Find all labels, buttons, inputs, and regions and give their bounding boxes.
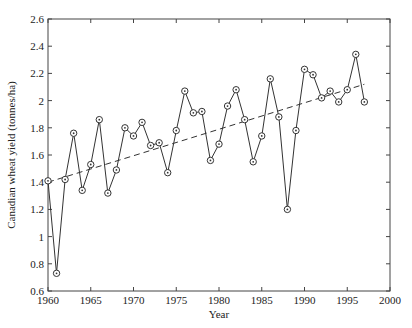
y-axis-label: Canadian wheat yield (tonnes/ha) <box>5 81 18 229</box>
y-tick-label: 0.6 <box>30 285 44 297</box>
data-point-dot <box>338 101 340 103</box>
data-point-dot <box>201 111 203 113</box>
data-point-dot <box>261 135 263 137</box>
x-tick-label: 1995 <box>336 294 359 306</box>
data-point-dot <box>304 68 306 70</box>
yield-line <box>48 54 364 273</box>
data-point-dot <box>312 74 314 76</box>
y-tick-label: 1.6 <box>30 149 44 161</box>
data-point-dot <box>235 89 237 91</box>
data-point-dot <box>346 89 348 91</box>
data-point-dot <box>98 119 100 121</box>
axis-ticks <box>48 19 390 291</box>
y-tick-label: 1.2 <box>30 203 44 215</box>
data-point-dot <box>363 101 365 103</box>
data-point-dot <box>287 209 289 211</box>
series-layer <box>45 51 368 276</box>
y-tick-label: 1.4 <box>30 176 44 188</box>
data-point-dot <box>64 179 66 181</box>
data-point-dot <box>269 78 271 80</box>
data-point-dot <box>150 145 152 147</box>
data-point-dot <box>158 142 160 144</box>
data-point-dot <box>192 112 194 114</box>
data-point-dot <box>244 119 246 121</box>
data-point-dot <box>355 53 357 55</box>
y-tick-label: 1.8 <box>30 122 44 134</box>
y-tick-label: 2 <box>39 95 45 107</box>
data-point-dot <box>167 172 169 174</box>
data-point-dot <box>47 180 49 182</box>
plot-area <box>48 19 390 291</box>
data-point-dot <box>133 135 135 137</box>
data-point-dot <box>141 121 143 123</box>
x-tick-label: 1980 <box>208 294 231 306</box>
y-tick-label: 0.8 <box>30 258 44 270</box>
data-point-dot <box>321 97 323 99</box>
data-point-dot <box>278 116 280 118</box>
y-tick-label: 2.4 <box>30 40 44 52</box>
x-tick-label: 1990 <box>294 294 317 306</box>
data-point-dot <box>210 160 212 162</box>
data-point-dot <box>56 272 58 274</box>
y-axis-tick-labels: 0.60.811.21.41.61.822.22.42.6 <box>30 13 44 297</box>
data-point-dot <box>184 90 186 92</box>
x-tick-label: 1985 <box>251 294 274 306</box>
x-tick-label: 1965 <box>80 294 103 306</box>
x-tick-label: 2000 <box>379 294 402 306</box>
data-point-dot <box>295 130 297 132</box>
x-tick-label: 1970 <box>123 294 146 306</box>
data-point-dot <box>90 164 92 166</box>
x-tick-label: 1975 <box>165 294 188 306</box>
y-tick-label: 2.6 <box>30 13 44 25</box>
data-point-dot <box>227 105 229 107</box>
wheat-yield-chart: 196019651970197519801985199019952000 0.6… <box>0 0 412 328</box>
data-point-dot <box>329 90 331 92</box>
data-point-dot <box>218 143 220 145</box>
x-axis-label: Year <box>209 308 230 320</box>
data-point-dot <box>81 189 83 191</box>
y-tick-label: 2.2 <box>30 67 44 79</box>
data-point-dot <box>124 127 126 129</box>
y-tick-label: 1 <box>39 231 45 243</box>
data-point-dot <box>73 132 75 134</box>
data-point-dot <box>175 130 177 132</box>
data-point-dot <box>116 169 118 171</box>
data-point-dot <box>107 192 109 194</box>
data-point-dot <box>252 161 254 163</box>
x-axis-tick-labels: 196019651970197519801985199019952000 <box>37 294 402 306</box>
